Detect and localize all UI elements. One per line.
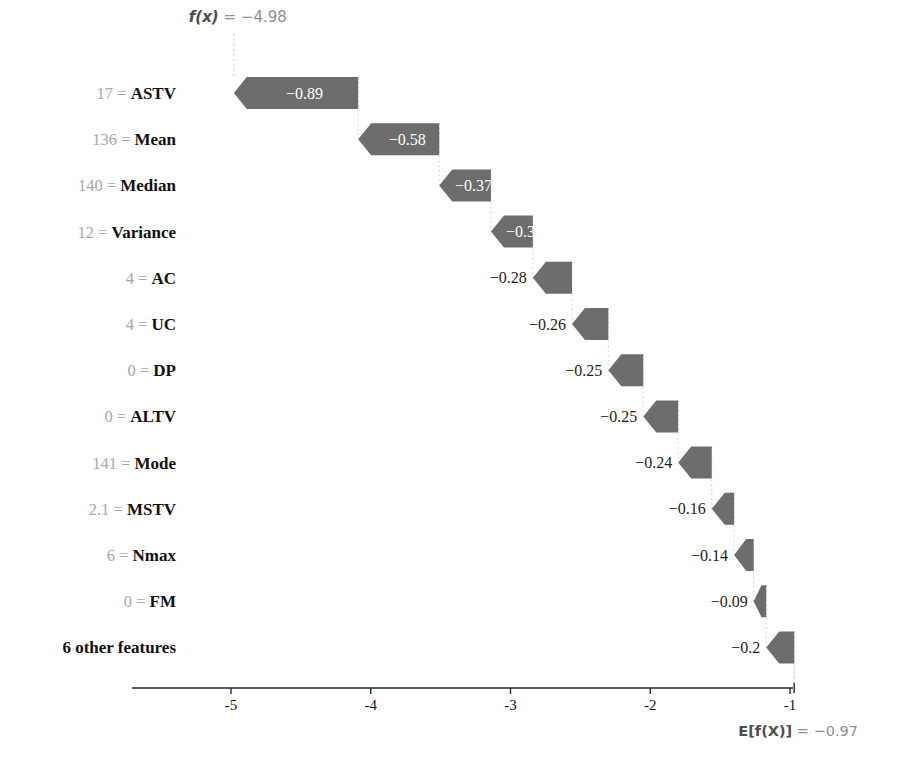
bar-value-label: −0.37	[455, 177, 492, 194]
feature-label-row: 140 = Median	[78, 176, 177, 195]
bar-shape[interactable]	[608, 354, 643, 386]
feature-label: 0 = DP	[128, 361, 176, 380]
feature-label-row: 12 = Variance	[77, 223, 176, 242]
feature-label: 0 = ALTV	[105, 407, 177, 426]
waterfall-bar[interactable]: −0.16	[669, 493, 734, 525]
feature-label-row: 136 = Mean	[92, 130, 176, 149]
axis-tick-label: -3	[504, 697, 517, 713]
waterfall-bar[interactable]: −0.2	[731, 631, 794, 663]
feature-label-row: 17 = ASTV	[97, 84, 177, 103]
feature-label: 141 = Mode	[92, 454, 176, 473]
efx-annotation: E[f(X)] = −0.97	[738, 723, 858, 739]
feature-label: 4 = UC	[126, 315, 176, 334]
feature-label-row: 6 other features	[62, 638, 176, 657]
feature-label: 6 = Nmax	[107, 546, 177, 565]
feature-label: 17 = ASTV	[97, 84, 177, 103]
bar-value-label: −0.28	[490, 269, 527, 286]
bar-value-label: −0.14	[691, 547, 728, 564]
waterfall-bar[interactable]: −0.25	[565, 354, 643, 386]
feature-label-row: 2.1 = MSTV	[89, 500, 177, 519]
waterfall-bar[interactable]: −0.37	[439, 169, 492, 201]
waterfall-bar[interactable]: −0.25	[600, 400, 678, 432]
axis-tick-label: -4	[365, 697, 378, 713]
x-axis: -5-4-3-2-1	[132, 683, 796, 713]
feature-label: 12 = Variance	[77, 223, 176, 242]
feature-label-row: 6 = Nmax	[107, 546, 177, 565]
feature-label-row: 4 = UC	[126, 315, 176, 334]
feature-label-row: 0 = FM	[124, 592, 176, 611]
bar-shape[interactable]	[533, 262, 572, 294]
feature-label-row: 0 = ALTV	[105, 407, 177, 426]
bar-value-label: −0.25	[600, 408, 637, 425]
bar-value-label: −0.58	[389, 131, 426, 148]
bars-group: −0.89−0.58−0.37−0.3−0.28−0.26−0.25−0.25−…	[234, 77, 794, 663]
feature-label: 2.1 = MSTV	[89, 500, 177, 519]
waterfall-bar[interactable]: −0.28	[490, 262, 572, 294]
waterfall-bar[interactable]: −0.14	[691, 539, 754, 571]
feature-label-row: 4 = AC	[126, 269, 176, 288]
feature-label: 136 = Mean	[92, 130, 176, 149]
feature-labels-group: 17 = ASTV136 = Mean140 = Median12 = Vari…	[62, 84, 176, 657]
bar-shape[interactable]	[712, 493, 734, 525]
bar-value-label: −0.25	[565, 362, 602, 379]
bar-value-label: −0.09	[711, 593, 748, 610]
waterfall-bar[interactable]: −0.89	[234, 77, 358, 109]
feature-label: 4 = AC	[126, 269, 176, 288]
chart-canvas: −0.89−0.58−0.37−0.3−0.28−0.26−0.25−0.25−…	[0, 0, 899, 761]
bar-shape[interactable]	[766, 631, 794, 663]
annotations: f(x) = −4.98E[f(X)] = −0.97	[189, 8, 858, 739]
feature-label: 0 = FM	[124, 592, 176, 611]
feature-label-row: 141 = Mode	[92, 454, 176, 473]
bar-value-label: −0.3	[506, 223, 535, 240]
bar-value-label: −0.24	[635, 454, 672, 471]
waterfall-bar[interactable]: −0.26	[529, 308, 608, 340]
waterfall-bar[interactable]: −0.09	[711, 585, 767, 617]
waterfall-bar[interactable]: −0.58	[358, 123, 439, 155]
bar-value-label: −0.89	[286, 85, 323, 102]
bar-shape[interactable]	[734, 539, 754, 571]
bar-value-label: −0.26	[529, 316, 566, 333]
axis-tick-label: -5	[225, 697, 238, 713]
axis-tick-label: -1	[784, 697, 797, 713]
shap-waterfall-chart: −0.89−0.58−0.37−0.3−0.28−0.26−0.25−0.25−…	[0, 0, 899, 761]
waterfall-bar[interactable]: −0.3	[491, 216, 535, 248]
bar-shape[interactable]	[678, 447, 712, 479]
bar-shape[interactable]	[572, 308, 608, 340]
feature-label: 140 = Median	[78, 176, 177, 195]
bar-value-label: −0.2	[731, 639, 760, 656]
waterfall-bar[interactable]: −0.24	[635, 447, 712, 479]
other-features-label: 6 other features	[62, 638, 176, 657]
bar-value-label: −0.16	[669, 500, 706, 517]
fx-annotation: f(x) = −4.98	[189, 8, 287, 26]
bar-shape[interactable]	[754, 585, 767, 617]
axis-tick-label: -2	[644, 697, 657, 713]
bar-shape[interactable]	[643, 400, 678, 432]
feature-label-row: 0 = DP	[128, 361, 176, 380]
